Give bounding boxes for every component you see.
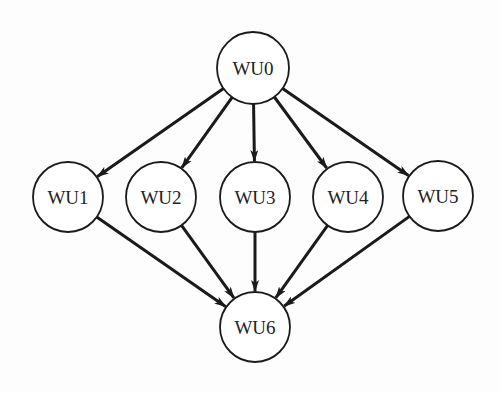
node-wu3: WU3 <box>220 162 290 232</box>
node-wu5: WU5 <box>403 161 473 231</box>
edge-wu0-wu3 <box>254 104 255 161</box>
node-label: WU1 <box>47 187 88 208</box>
node-label: WU5 <box>417 186 458 207</box>
node-label: WU2 <box>140 187 181 208</box>
node-wu6: WU6 <box>220 292 290 362</box>
nodes-group: WU0WU1WU2WU3WU4WU5WU6 <box>33 32 473 362</box>
edge-wu2-wu6 <box>182 225 234 297</box>
node-wu2: WU2 <box>126 162 196 232</box>
dag-diagram: WU0WU1WU2WU3WU4WU5WU6 <box>0 0 500 393</box>
node-wu0: WU0 <box>217 32 289 104</box>
node-wu1: WU1 <box>33 162 103 232</box>
edge-wu4-wu6 <box>276 225 328 297</box>
edge-wu0-wu4 <box>274 97 326 168</box>
edge-wu0-wu2 <box>182 97 232 167</box>
node-label: WU3 <box>234 187 275 208</box>
node-wu4: WU4 <box>313 162 383 232</box>
node-label: WU0 <box>232 58 273 79</box>
node-label: WU4 <box>327 187 369 208</box>
diagram-svg: WU0WU1WU2WU3WU4WU5WU6 <box>0 0 500 393</box>
node-label: WU6 <box>234 317 275 338</box>
